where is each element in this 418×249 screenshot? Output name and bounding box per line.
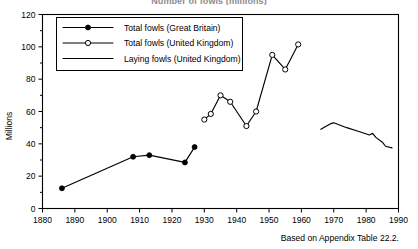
series-line <box>321 123 392 148</box>
y-axis-title: Millions <box>4 112 14 140</box>
data-series <box>59 145 197 191</box>
x-tick-label: 1950 <box>260 215 279 225</box>
x-tick-label: 1910 <box>130 215 149 225</box>
data-point <box>147 153 152 158</box>
x-tick-label: 1940 <box>227 215 246 225</box>
x-tick-label: 1900 <box>98 215 117 225</box>
chart-legend: Total fowls (Great Britain)Total fowls (… <box>57 18 243 71</box>
y-axis-tick-labels: 020406080100120 <box>21 10 35 214</box>
data-point <box>218 93 223 98</box>
series-line <box>62 147 195 188</box>
data-point <box>244 123 249 128</box>
x-tick-label: 1990 <box>389 215 408 225</box>
data-point <box>296 42 301 47</box>
legend-label: Laying fowls (United Kingdom) <box>124 54 241 64</box>
x-tick-label: 1970 <box>324 215 343 225</box>
x-tick-label: 1890 <box>65 215 84 225</box>
data-point <box>202 117 207 122</box>
data-point <box>254 109 259 114</box>
y-tick-label: 120 <box>21 10 35 20</box>
x-tick-label: 1920 <box>162 215 181 225</box>
x-tick-label: 1930 <box>195 215 214 225</box>
data-point <box>192 145 197 150</box>
fowls-line-chart: 020406080100120 188018901900191019201930… <box>0 0 418 249</box>
x-tick-label: 1880 <box>33 215 52 225</box>
chart-figure: Number of fowls (millions) 0204060801001… <box>0 0 418 249</box>
x-axis-tick-labels: 1880189019001910192019301940195019601970… <box>33 215 408 225</box>
data-point <box>208 111 213 116</box>
data-point <box>283 67 288 72</box>
x-axis-ticks <box>43 209 399 213</box>
data-point <box>228 99 233 104</box>
y-tick-label: 100 <box>21 42 35 52</box>
legend-marker <box>85 40 90 45</box>
y-axis-ticks <box>39 15 43 209</box>
y-tick-label: 20 <box>26 171 36 181</box>
legend-label: Total fowls (Great Britain) <box>124 23 221 33</box>
data-series <box>321 123 392 148</box>
data-point <box>131 154 136 159</box>
legend-marker <box>86 25 91 30</box>
data-point <box>59 186 64 191</box>
x-tick-label: 1960 <box>292 215 311 225</box>
data-point <box>182 160 187 165</box>
x-tick-label: 1980 <box>357 215 376 225</box>
y-tick-label: 80 <box>26 74 36 84</box>
y-tick-label: 60 <box>26 107 36 117</box>
y-tick-label: 0 <box>31 204 36 214</box>
y-tick-label: 40 <box>26 139 36 149</box>
source-note: Based on Appendix Table 22.2. <box>281 233 399 243</box>
data-point <box>270 52 275 57</box>
legend-label: Total fowls (United Kingdom) <box>124 38 234 48</box>
